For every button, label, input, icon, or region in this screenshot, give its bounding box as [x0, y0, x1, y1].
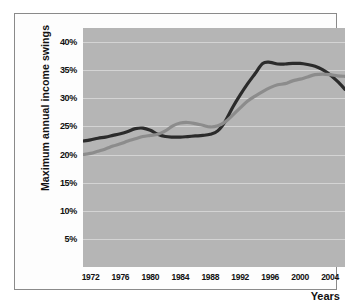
chart-figure: Maximum annual income swings 5%10%15%20%… — [0, 0, 350, 306]
x-tick-label: 1980 — [130, 272, 170, 282]
chart-frame: Maximum annual income swings 5%10%15%20%… — [14, 13, 337, 290]
series-line-dark-series — [83, 62, 345, 141]
x-axis-title: Years — [270, 290, 340, 302]
x-tick-label: 1972 — [70, 272, 110, 282]
plot-area — [83, 28, 345, 267]
x-tick-label: 1996 — [250, 272, 290, 282]
x-tick-label: 2004 — [310, 272, 350, 282]
series-line-light-series — [83, 74, 345, 154]
x-tick-label: 2000 — [280, 272, 320, 282]
y-axis-title: Maximum annual income swings — [39, 0, 51, 218]
x-tick-label: 1984 — [160, 272, 200, 282]
chart-svg — [83, 28, 345, 267]
y-tick-label: 5% — [41, 234, 77, 244]
series-lines — [83, 62, 345, 154]
x-tick-label: 1992 — [220, 272, 260, 282]
x-tick-label: 1988 — [190, 272, 230, 282]
gridlines — [83, 43, 345, 240]
x-tick-label: 1976 — [100, 272, 140, 282]
